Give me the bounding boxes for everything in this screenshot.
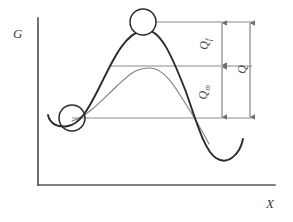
main-energy-curve bbox=[48, 30, 243, 161]
x-axis-label: X bbox=[266, 196, 274, 212]
secondary-energy-curve bbox=[72, 68, 209, 144]
diagram-canvas bbox=[0, 0, 293, 222]
forward-barrier-symbol: Q bbox=[197, 41, 211, 50]
total-barrier-label: Q bbox=[235, 60, 250, 80]
energy-barrier-diagram: G X Qf Qm Q bbox=[0, 0, 293, 222]
forward-barrier-label: Qf bbox=[197, 32, 213, 56]
forward-barrier-subscript: f bbox=[204, 39, 213, 41]
transition-state-circle bbox=[130, 9, 156, 35]
reverse-barrier-symbol: Q bbox=[196, 91, 210, 100]
reverse-barrier-label: Qm bbox=[196, 80, 212, 104]
axes-group bbox=[38, 18, 275, 185]
reverse-barrier-subscript: m bbox=[203, 85, 212, 91]
y-axis-label: G bbox=[13, 26, 22, 42]
